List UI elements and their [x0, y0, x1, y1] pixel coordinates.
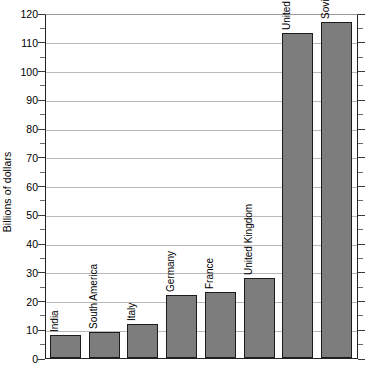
- y-tick-minor-right: [358, 229, 363, 230]
- y-tick-major: [38, 215, 45, 216]
- bar[interactable]: [166, 295, 197, 358]
- y-tick-major: [38, 157, 45, 158]
- bar-category-label: Italy: [126, 302, 137, 320]
- y-tick-major: [38, 14, 45, 15]
- y-tick-major-right: [358, 157, 365, 158]
- y-tick-label: 70: [16, 153, 38, 164]
- y-tick-minor-right: [358, 114, 363, 115]
- y-tick-major-right: [358, 186, 365, 187]
- y-tick-label: 30: [16, 268, 38, 279]
- y-tick-major: [38, 301, 45, 302]
- bar-category-label: Soviet Union: [320, 0, 331, 19]
- y-tick-major: [38, 272, 45, 273]
- y-tick-major: [38, 186, 45, 187]
- y-tick-label: 40: [16, 239, 38, 250]
- y-tick-label: 100: [16, 66, 38, 77]
- y-tick-minor-right: [358, 344, 363, 345]
- bar-group: United States: [282, 15, 313, 358]
- y-tick-major-right: [358, 100, 365, 101]
- y-tick-label: 20: [16, 296, 38, 307]
- y-tick-label: 110: [16, 38, 38, 49]
- y-axis-title: Billions of dollars: [0, 0, 14, 384]
- y-tick-minor-right: [358, 287, 363, 288]
- bar-category-label: South America: [88, 264, 99, 329]
- bar-category-label: France: [204, 258, 215, 289]
- y-tick-major-right: [358, 129, 365, 130]
- y-tick-major-right: [358, 330, 365, 331]
- y-tick-minor-right: [358, 28, 363, 29]
- y-tick-major: [38, 244, 45, 245]
- y-tick-major: [38, 71, 45, 72]
- bar-category-label: Germany: [165, 251, 176, 292]
- y-tick-label: 90: [16, 95, 38, 106]
- y-tick-major: [38, 129, 45, 130]
- bar-category-label: India: [49, 310, 60, 332]
- y-tick-major-right: [358, 244, 365, 245]
- y-tick-minor-right: [358, 315, 363, 316]
- y-tick-minor-right: [358, 172, 363, 173]
- y-tick-major-right: [358, 71, 365, 72]
- bar[interactable]: [89, 332, 120, 358]
- bar[interactable]: [321, 22, 352, 358]
- bar-group: United Kingdom: [244, 15, 275, 358]
- y-tick-label: 0: [16, 354, 38, 365]
- y-tick-label: 60: [16, 181, 38, 192]
- bar-group: France: [205, 15, 236, 358]
- bar-group: South America: [89, 15, 120, 358]
- bar[interactable]: [244, 278, 275, 359]
- bar-group: Germany: [166, 15, 197, 358]
- bars-layer: IndiaSouth AmericaItalyGermanyFranceUnit…: [46, 15, 357, 358]
- bar-chart: Billions of dollars 01020304050607080901…: [0, 0, 368, 384]
- bar-category-label: United Kingdom: [243, 203, 254, 274]
- y-tick-label: 10: [16, 325, 38, 336]
- y-tick-label: 50: [16, 210, 38, 221]
- y-tick-major-right: [358, 301, 365, 302]
- bar-group: Soviet Union: [321, 15, 352, 358]
- bar[interactable]: [282, 33, 313, 358]
- y-tick-major-right: [358, 359, 365, 360]
- bar-group: India: [50, 15, 81, 358]
- y-axis-tick-labels: 0102030405060708090100110120: [14, 0, 38, 384]
- y-tick-major-right: [358, 42, 365, 43]
- y-tick-minor-right: [358, 85, 363, 86]
- y-tick-minor-right: [358, 258, 363, 259]
- y-tick-major: [38, 42, 45, 43]
- y-tick-minor-right: [358, 143, 363, 144]
- plot-area: IndiaSouth AmericaItalyGermanyFranceUnit…: [45, 14, 358, 359]
- y-tick-label: 80: [16, 124, 38, 135]
- y-tick-minor-right: [358, 57, 363, 58]
- y-tick-major-right: [358, 272, 365, 273]
- y-tick-major: [38, 359, 45, 360]
- bar-category-label: United States: [281, 0, 292, 30]
- y-tick-minor-right: [358, 200, 363, 201]
- y-tick-major: [38, 330, 45, 331]
- y-tick-major-right: [358, 215, 365, 216]
- y-tick-label: 120: [16, 9, 38, 20]
- bar-group: Italy: [127, 15, 158, 358]
- bar[interactable]: [127, 324, 158, 359]
- y-tick-major-right: [358, 14, 365, 15]
- bar[interactable]: [205, 292, 236, 358]
- bar[interactable]: [50, 335, 81, 358]
- y-tick-major: [38, 100, 45, 101]
